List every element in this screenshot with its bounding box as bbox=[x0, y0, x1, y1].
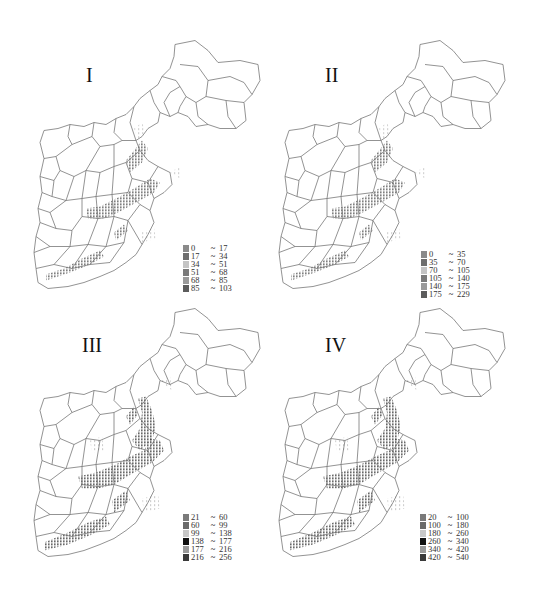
region-map-I bbox=[30, 30, 270, 295]
legend-swatch bbox=[421, 251, 427, 258]
legend-swatch bbox=[183, 269, 189, 276]
region-map-III bbox=[30, 298, 270, 563]
panel-label: IV bbox=[325, 334, 346, 357]
legend-row: 420~540 bbox=[420, 553, 469, 561]
legend-swatch bbox=[421, 291, 427, 298]
legend-swatch bbox=[421, 259, 427, 266]
legend-swatch bbox=[421, 283, 427, 290]
legend-swatch bbox=[420, 554, 426, 561]
map-panel-I: I 0~17 17~34 34~51 51~68 68~85 85~103 bbox=[30, 30, 298, 328]
legend-swatch bbox=[421, 275, 427, 282]
legend-swatch bbox=[183, 546, 189, 553]
region-map-II bbox=[275, 30, 515, 295]
panel-label: II bbox=[325, 64, 338, 87]
legend: 21~60 60~99 99~138 138~177 177~216 216~2… bbox=[183, 513, 232, 561]
legend-swatch bbox=[183, 285, 189, 292]
panel-label: III bbox=[82, 334, 102, 357]
legend-swatch bbox=[183, 530, 189, 537]
legend-swatch bbox=[183, 522, 189, 529]
legend-swatch bbox=[183, 245, 189, 252]
legend-swatch bbox=[420, 546, 426, 553]
legend-row: 216~256 bbox=[183, 553, 232, 561]
legend-swatch bbox=[420, 530, 426, 537]
legend-swatch bbox=[183, 261, 189, 268]
legend-swatch bbox=[421, 267, 427, 274]
legend-row: 175~229 bbox=[421, 290, 470, 298]
legend-swatch bbox=[420, 514, 426, 521]
legend-row: 85~103 bbox=[183, 284, 232, 292]
map-panel-III: III 21~60 60~99 99~138 138~177 177~216 2… bbox=[30, 298, 298, 596]
legend-swatch bbox=[420, 538, 426, 545]
map-panel-IV: IV 20~100 100~180 180~260 260~340 340~42… bbox=[275, 298, 537, 596]
region-map-IV bbox=[275, 298, 515, 563]
panel-label: I bbox=[86, 64, 93, 87]
legend-swatch bbox=[183, 253, 189, 260]
legend: 0~17 17~34 34~51 51~68 68~85 85~103 bbox=[183, 244, 232, 292]
legend: 20~100 100~180 180~260 260~340 340~420 4… bbox=[420, 513, 469, 561]
map-panel-II: II 0~35 35~70 70~105 105~140 140~175 175… bbox=[275, 30, 537, 328]
legend-swatch bbox=[420, 522, 426, 529]
legend: 0~35 35~70 70~105 105~140 140~175 175~22… bbox=[421, 250, 470, 298]
legend-swatch bbox=[183, 514, 189, 521]
legend-swatch bbox=[183, 538, 189, 545]
legend-swatch bbox=[183, 554, 189, 561]
legend-swatch bbox=[183, 277, 189, 284]
